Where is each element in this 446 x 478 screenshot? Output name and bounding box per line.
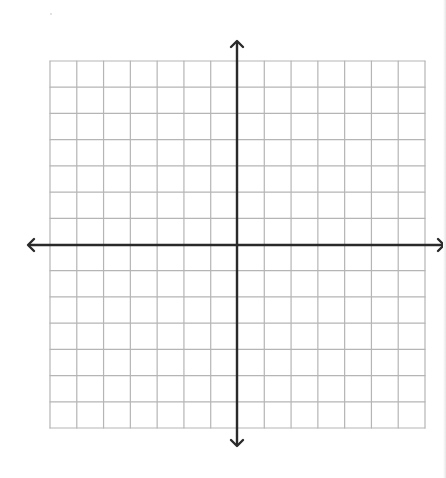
coordinate-grid-svg <box>0 0 446 478</box>
paper-speck <box>50 13 52 15</box>
axes <box>28 41 444 446</box>
coordinate-plane <box>0 0 446 478</box>
